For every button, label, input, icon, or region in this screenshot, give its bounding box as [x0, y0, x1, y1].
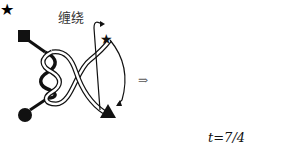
transition-arrow: ⇒: [138, 73, 148, 87]
twist-label: 缠绕: [58, 7, 84, 26]
star-icon: ★: [100, 31, 113, 47]
circle-icon: [18, 108, 32, 122]
parameter-label: t=7/4: [208, 130, 245, 145]
left-panel: ★: [18, 21, 125, 122]
ribbon-diagram: ★: [0, 0, 300, 153]
